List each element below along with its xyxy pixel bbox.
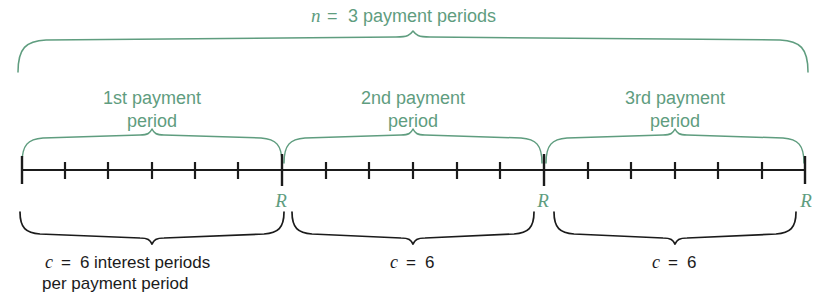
interest-brace-2 — [292, 212, 534, 244]
interest-label-3-equals: = — [668, 253, 678, 272]
period-label-2-line1: 2nd payment — [361, 88, 465, 108]
period-brace-2 — [284, 129, 542, 163]
interest-label-1-equals: = — [61, 253, 71, 272]
period-label-2: 2nd payment period — [361, 88, 465, 131]
interest-brace-1 — [20, 212, 284, 244]
interest-label-1-variable: c — [45, 252, 53, 272]
interest-label-3-variable: c — [652, 252, 660, 272]
interest-label-1: c = 6 interest periods per payment perio… — [42, 252, 210, 293]
period-label-1-line1: 1st payment — [103, 88, 201, 108]
period-label-3-line2: period — [650, 111, 700, 131]
top-heading-variable: n — [311, 5, 321, 26]
interest-label-1-value: 6 — [80, 253, 89, 272]
period-brace-1 — [22, 129, 282, 163]
top-heading-equals: = — [327, 6, 338, 26]
interest-brace-3 — [554, 212, 796, 244]
period-brace-3 — [546, 129, 804, 163]
interest-label-2-value: 6 — [425, 253, 434, 272]
period-label-1-line2: period — [127, 111, 177, 131]
interest-label-3-value: 6 — [687, 253, 696, 272]
period-label-1: 1st payment period — [103, 88, 201, 131]
annuity-timeline-diagram: n = 3 payment periods 1st payment period… — [0, 0, 819, 296]
period-label-3: 3rd payment period — [625, 88, 725, 131]
interest-label-1-suffix: interest periods — [94, 253, 210, 272]
period-label-2-line2: period — [388, 111, 438, 131]
payment-marker-1: R — [274, 190, 287, 211]
interest-label-2: c = 6 — [390, 252, 434, 272]
payment-marker-3: R — [799, 190, 812, 211]
interest-label-1-line2: per payment period — [42, 274, 188, 293]
payment-marker-2: R — [536, 190, 549, 211]
period-label-3-line1: 3rd payment — [625, 88, 725, 108]
overall-span-brace — [18, 31, 808, 72]
top-heading-text: 3 payment periods — [348, 6, 496, 26]
top-heading: n = 3 payment periods — [311, 5, 496, 26]
interest-label-2-equals: = — [406, 253, 416, 272]
interest-label-2-variable: c — [390, 252, 398, 272]
interest-label-3: c = 6 — [652, 252, 696, 272]
